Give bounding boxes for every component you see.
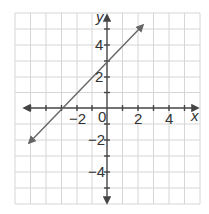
- y-tick-label: 2: [95, 68, 103, 85]
- y-tick-label: 4: [95, 36, 103, 53]
- x-tick-label: 4: [165, 110, 173, 127]
- x-axis-label: x: [190, 107, 199, 124]
- x-tick-label: −2: [69, 110, 86, 127]
- y-tick-label: −2: [88, 131, 105, 148]
- coordinate-plane: y x −2 0 2 4 4 2 −2 −4: [0, 0, 209, 214]
- y-axis-label: y: [95, 8, 105, 25]
- x-tick-label: 0: [98, 108, 106, 125]
- y-tick-label: −4: [88, 163, 105, 180]
- x-tick-label: 2: [134, 110, 142, 127]
- axes: [24, 15, 198, 203]
